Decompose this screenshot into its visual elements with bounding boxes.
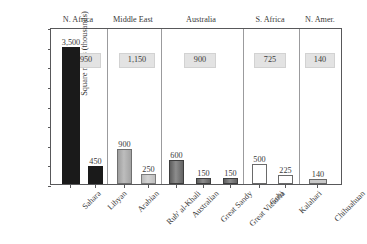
bar-chihuahuan: 140: [309, 179, 327, 185]
group-separator: [299, 29, 300, 184]
bar-sahara: 3,500: [62, 47, 80, 184]
bar-value-label: 250: [142, 165, 154, 175]
bar-value-label: 150: [197, 169, 209, 179]
bar-rub-al-khali: 250: [141, 174, 156, 184]
group-header-n-amer: N. Amer.: [298, 14, 342, 26]
group-header-middle-east: Middle East: [106, 14, 160, 26]
bar-value-label: 900: [118, 140, 130, 150]
x-label-kalahari: Kalahari: [297, 189, 323, 215]
bar-value-label: 140: [312, 170, 324, 180]
bar-kalahari: 225: [278, 175, 293, 184]
group-separator: [243, 29, 244, 184]
bar-value-label: 3,500: [62, 38, 80, 48]
bar-value-label: 450: [89, 157, 101, 167]
bar-gobi: 500: [252, 164, 267, 184]
group-header-band: N. Africa Middle East Australia S. Afric…: [50, 14, 342, 28]
bar-value-label: 600: [170, 151, 182, 161]
group-separator: [107, 29, 108, 184]
bar-libyan: 450: [88, 166, 103, 184]
bar-great-victoria: 150: [223, 178, 238, 184]
group-header-australia: Australia: [160, 14, 242, 26]
x-label-libyan: Libyan: [106, 189, 129, 212]
bar-value-label: 225: [279, 166, 291, 176]
x-label-gobi: Gobi: [268, 189, 286, 207]
group-separator: [161, 29, 162, 184]
bar-arabian: 900: [117, 149, 132, 184]
bar-australian: 600: [169, 160, 184, 184]
group-total-australia: 900: [184, 53, 216, 68]
plot-area: Square miles (thousands) 0 500 1,000 1,5…: [50, 28, 342, 185]
x-label-arabian: Arabian: [136, 189, 161, 214]
group-total-s-africa: 725: [254, 53, 286, 68]
bar-great-sandy: 150: [196, 178, 211, 184]
group-total-middle-east: 1,150: [119, 53, 155, 68]
x-label-sahara: Sahara: [81, 189, 103, 211]
x-label-chihuahuan: Chihuahuan: [333, 189, 367, 223]
group-header-s-africa: S. Africa: [242, 14, 298, 26]
group-total-n-amer: 140: [305, 53, 335, 68]
bar-value-label: 150: [224, 169, 236, 179]
group-header-n-africa: N. Africa: [50, 14, 106, 26]
bar-value-label: 500: [253, 155, 265, 165]
